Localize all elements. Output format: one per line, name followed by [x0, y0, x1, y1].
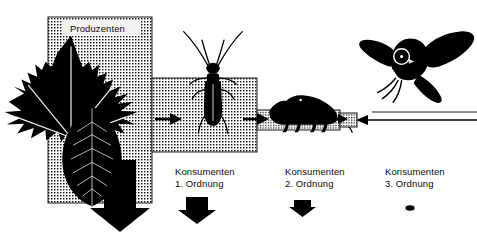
level-konsumenten-3 [340, 113, 415, 211]
label-konsumenten-2-line2: 2. Ordnung [285, 178, 345, 190]
label-konsumenten-1-line1: Konsumenten [175, 166, 235, 178]
flow-arrow-4 [356, 115, 477, 125]
label-konsumenten-2: Konsumenten 2. Ordnung [285, 166, 345, 189]
diagram-canvas [0, 0, 477, 238]
food-chain-diagram: Produzenten Konsumenten 1. Ordnung Konsu… [0, 0, 477, 238]
label-konsumenten-1: Konsumenten 1. Ordnung [175, 166, 235, 189]
loss-arrow-konsumenten-2 [289, 200, 316, 217]
label-konsumenten-3-line2: 3. Ordnung [385, 178, 445, 190]
label-konsumenten-3-line1: Konsumenten [385, 166, 445, 178]
label-produzenten: Produzenten [70, 23, 125, 35]
organism-owl [359, 31, 474, 103]
loss-arrow-konsumenten-3 [405, 205, 414, 211]
loss-arrow-konsumenten-1 [178, 197, 216, 224]
label-konsumenten-1-line2: 1. Ordnung [175, 178, 235, 190]
label-konsumenten-3: Konsumenten 3. Ordnung [385, 166, 445, 189]
label-konsumenten-2-line1: Konsumenten [285, 166, 345, 178]
